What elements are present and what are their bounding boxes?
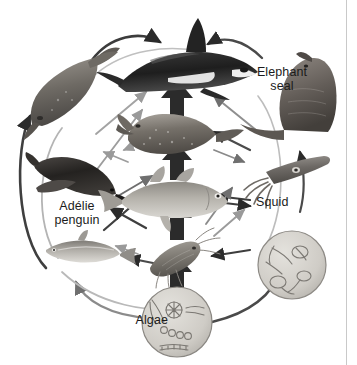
food-web-figure: Elephant seal Adélie penguin Squid Algae	[0, 0, 347, 365]
link-algae-silverfish	[76, 282, 150, 318]
organism-elephant-seal	[240, 52, 337, 140]
food-web-canvas	[0, 0, 347, 365]
link-eseal-seal	[214, 96, 256, 130]
figure-page: Elephant seal Adélie penguin Squid Algae	[0, 0, 357, 365]
organism-silverfish	[46, 230, 136, 264]
link-krill-squid	[214, 210, 244, 236]
organism-zooplankton-inset	[258, 231, 326, 299]
link-seal-right-b	[214, 150, 244, 162]
link-seal-left	[104, 152, 128, 162]
ring-arc-left	[42, 128, 62, 258]
organism-squid	[244, 156, 330, 208]
organism-krill	[150, 228, 220, 290]
organism-algae-inset	[142, 287, 212, 357]
